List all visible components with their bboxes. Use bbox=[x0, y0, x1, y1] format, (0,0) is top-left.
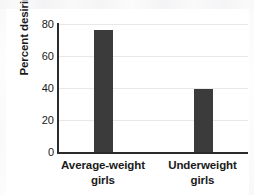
bar-average-weight-girls bbox=[94, 30, 113, 153]
y-axis-line bbox=[57, 23, 59, 154]
x-tick-label-underweight-girls: Underweight girls bbox=[155, 158, 250, 187]
x-tick-label-average-weight-girls: Average-weight girls bbox=[48, 158, 158, 187]
y-tick-80: 80 bbox=[30, 19, 54, 30]
bar-underweight-girls bbox=[194, 89, 213, 154]
gridline-20 bbox=[58, 120, 248, 121]
x-axis-line bbox=[57, 152, 248, 154]
scan-artifact-left bbox=[0, 0, 6, 195]
bar-chart-figure: Percent desiring to be smaller 80 60 40 … bbox=[0, 0, 254, 195]
gridline-40 bbox=[58, 88, 248, 89]
y-tick-60: 60 bbox=[30, 51, 54, 62]
x-tick-label-1-line-2: girls bbox=[155, 173, 250, 188]
plot-area bbox=[58, 24, 248, 153]
y-tick-0: 0 bbox=[30, 147, 54, 158]
gridline-60 bbox=[58, 56, 248, 57]
y-tick-20: 20 bbox=[30, 115, 54, 126]
gridline-80 bbox=[58, 24, 248, 25]
x-tick-label-1-line-1: Underweight bbox=[155, 158, 250, 173]
x-tick-label-0-line-1: Average-weight bbox=[48, 158, 158, 173]
y-tick-40: 40 bbox=[30, 83, 54, 94]
x-tick-label-0-line-2: girls bbox=[48, 173, 158, 188]
